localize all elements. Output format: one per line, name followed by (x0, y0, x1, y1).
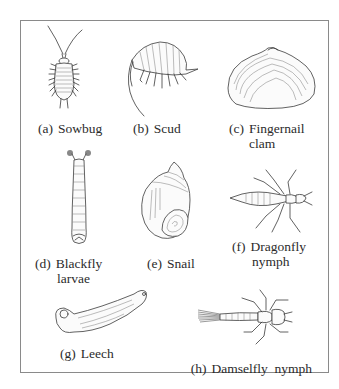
panel-tag: (a) (38, 121, 53, 136)
panel-name: Dragonfly (251, 239, 306, 254)
panel-tag: (d) (35, 256, 51, 271)
panel-label-e: (e)Snail (147, 256, 195, 271)
panel-tag: (f) (232, 239, 246, 254)
panel-name: Leech (81, 346, 114, 361)
damselfly-nymph-icon (196, 290, 296, 346)
panel-name: Fingernail (249, 121, 305, 136)
panel-tag: (b) (133, 121, 149, 136)
panel-label-c: (c)Fingernail clam (229, 121, 304, 151)
panel-tag: (e) (147, 256, 162, 271)
panel-label-a: (a)Sowbug (38, 121, 102, 136)
scud-icon (124, 36, 206, 118)
panel-name: Sowbug (58, 121, 102, 136)
panel-name-line2: nymph (232, 254, 306, 269)
panel-label-b: (b)Scud (133, 121, 181, 136)
snail-icon (138, 160, 198, 240)
panel-label-f: (f)Dragonfly nymph (232, 239, 306, 269)
panel-name: Blackfly (56, 256, 103, 271)
panel-label-d: (d)Blackfly larvae (35, 256, 102, 286)
panel-label-h: (h)Damselfly nymph (184, 346, 312, 376)
blackfly-larvae-icon (60, 148, 100, 248)
panel-name-line2: larvae (35, 271, 102, 286)
panel-tag: (h) (191, 361, 207, 376)
dragonfly-nymph-icon (226, 168, 318, 240)
panel-tag: (c) (229, 121, 244, 136)
panel-name: Snail (167, 256, 195, 271)
panel-label-g: (g)Leech (60, 346, 114, 361)
leech-icon (52, 288, 152, 338)
fingernail-clam-icon (222, 44, 322, 114)
panel-name: Damselfly nymph (212, 361, 313, 376)
panel-tag: (g) (60, 346, 76, 361)
panel-name: Scud (154, 121, 181, 136)
panel-name-line2: clam (229, 136, 304, 151)
sowbug-icon (44, 24, 84, 114)
